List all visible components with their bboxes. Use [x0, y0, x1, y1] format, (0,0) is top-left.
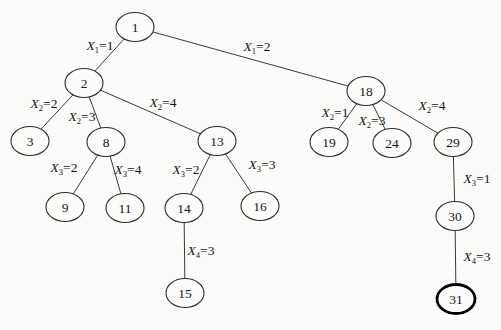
node-number-label: 15 — [178, 286, 192, 301]
edge-label-30-31: X4=3 — [463, 249, 491, 266]
node-number-label: 1 — [132, 20, 139, 35]
edge-label-1-2: X1=1 — [86, 38, 114, 55]
decision-tree-svg: X1=1X1=2X2=2X2=3X2=4X3=2X3=4X3=2X3=3X4=3… — [0, 0, 501, 330]
tree-node-3: 3 — [11, 127, 49, 156]
tree-node-30: 30 — [436, 202, 474, 231]
tree-node-14: 14 — [165, 194, 203, 223]
node-number-label: 31 — [449, 292, 463, 307]
edge-label-18-29: X2=4 — [418, 98, 446, 115]
edge-label-2-3: X2=2 — [30, 96, 58, 113]
search-tree-figure: X1=1X1=2X2=2X2=3X2=4X3=2X3=4X3=2X3=3X4=3… — [0, 0, 501, 330]
tree-node-16: 16 — [241, 192, 279, 221]
tree-node-24: 24 — [373, 129, 411, 158]
edge-label-1-18: X1=2 — [243, 39, 271, 56]
edge-label-2-8: X2=3 — [68, 109, 96, 126]
tree-node-9: 9 — [46, 193, 84, 222]
edge-label-13-14: X3=2 — [172, 162, 200, 179]
node-number-label: 29 — [446, 135, 460, 150]
edge-label-2-13: X2=4 — [149, 95, 177, 112]
tree-node-13: 13 — [198, 127, 236, 156]
tree-node-2: 2 — [65, 69, 103, 98]
node-number-label: 14 — [177, 201, 191, 216]
tree-node-15: 15 — [166, 279, 204, 308]
tree-node-19: 19 — [310, 128, 348, 157]
edge-label-13-16: X3=3 — [248, 157, 276, 174]
tree-node-31: 31 — [437, 285, 475, 314]
node-number-label: 3 — [27, 134, 34, 149]
node-number-label: 30 — [448, 209, 462, 224]
edge-label-29-30: X3=1 — [463, 171, 491, 188]
node-number-label: 13 — [210, 134, 224, 149]
tree-node-8: 8 — [87, 128, 125, 157]
edge-label-14-15: X4=3 — [187, 243, 215, 260]
edge-label-8-11: X3=4 — [114, 162, 142, 179]
node-number-label: 2 — [81, 76, 88, 91]
edge-label-18-19: X2=1 — [321, 105, 349, 122]
node-number-label: 8 — [103, 135, 110, 150]
node-number-label: 11 — [119, 201, 132, 216]
edge-1-18 — [135, 27, 366, 91]
tree-node-1: 1 — [116, 13, 154, 42]
node-number-label: 16 — [253, 199, 267, 214]
node-number-label: 24 — [385, 136, 399, 151]
tree-node-11: 11 — [106, 194, 144, 223]
node-number-label: 19 — [322, 135, 336, 150]
tree-node-29: 29 — [434, 128, 472, 157]
edge-label-18-24: X2=3 — [358, 113, 386, 130]
node-number-label: 18 — [359, 84, 373, 99]
node-number-label: 9 — [62, 200, 69, 215]
edge-label-8-9: X3=2 — [50, 160, 78, 177]
tree-node-18: 18 — [347, 77, 385, 106]
